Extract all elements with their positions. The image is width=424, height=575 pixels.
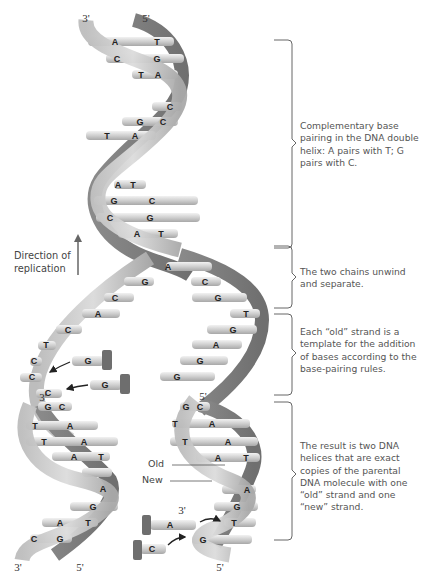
- svg-text:A: A: [71, 452, 78, 462]
- svg-text:C: C: [114, 54, 121, 64]
- old-strand-label: Old: [148, 458, 164, 469]
- svg-text:T: T: [243, 309, 249, 319]
- svg-text:C: C: [31, 356, 38, 366]
- left-strand-bases: G C A C T C C C: [20, 277, 154, 398]
- svg-text:G: G: [233, 502, 240, 512]
- svg-text:T: T: [182, 437, 188, 447]
- svg-text:A: A: [67, 421, 74, 431]
- svg-text:G: G: [136, 117, 143, 127]
- annotation-brackets: [274, 40, 296, 540]
- svg-text:A: A: [155, 70, 162, 80]
- svg-text:T: T: [98, 452, 104, 462]
- new-strand-label: New: [142, 474, 163, 485]
- svg-text:T: T: [41, 437, 47, 447]
- parental-helix: A T C G T A C G C T A A T G C C G A T: [86, 20, 200, 275]
- svg-text:C: C: [149, 544, 156, 554]
- svg-text:G: G: [214, 293, 221, 303]
- annotation-template: Each “old” strand is a template for the …: [300, 326, 422, 375]
- svg-text:T: T: [130, 180, 136, 190]
- svg-text:C: C: [107, 213, 114, 223]
- arrow-icon: [50, 362, 70, 372]
- svg-text:G: G: [141, 277, 148, 287]
- annotation-result: The result is two DNA helices that are e…: [300, 440, 422, 514]
- svg-text:T: T: [104, 131, 110, 141]
- svg-text:G: G: [199, 535, 206, 545]
- svg-text:T: T: [138, 70, 144, 80]
- svg-text:C: C: [112, 293, 119, 303]
- incoming-nucleotides-left: G G: [50, 350, 130, 394]
- svg-text:C: C: [65, 325, 72, 335]
- svg-text:5': 5': [199, 390, 207, 402]
- direction-of-replication-label: Direction of replication: [14, 249, 71, 275]
- svg-text:A: A: [81, 437, 88, 447]
- svg-text:C: C: [160, 117, 167, 127]
- svg-text:A: A: [100, 484, 107, 494]
- bracket-unwind: [274, 246, 296, 308]
- svg-text:G: G: [229, 325, 236, 335]
- svg-text:G: G: [84, 356, 91, 366]
- svg-text:C: C: [31, 534, 38, 544]
- svg-text:A: A: [225, 437, 232, 447]
- svg-text:G: G: [173, 372, 180, 382]
- svg-text:C: C: [29, 372, 36, 382]
- svg-text:T: T: [172, 419, 178, 429]
- svg-text:5': 5': [142, 12, 150, 24]
- svg-text:A: A: [167, 520, 174, 530]
- end-labels: 3' 5' 3' 5' 3' 5' 3' 5': [14, 12, 224, 573]
- svg-text:A: A: [132, 131, 139, 141]
- svg-text:T: T: [43, 340, 49, 350]
- svg-text:G: G: [146, 213, 153, 223]
- svg-text:C: C: [149, 196, 156, 206]
- svg-text:T: T: [85, 518, 91, 528]
- svg-text:G: G: [153, 54, 160, 64]
- svg-text:G: G: [56, 534, 63, 544]
- arrow-icon: [168, 537, 185, 545]
- svg-text:5': 5': [76, 561, 84, 573]
- svg-text:A: A: [209, 419, 216, 429]
- svg-text:A: A: [215, 453, 222, 463]
- svg-text:3': 3': [82, 12, 90, 24]
- svg-text:G: G: [182, 402, 189, 412]
- svg-text:G: G: [196, 356, 203, 366]
- svg-text:A: A: [112, 37, 119, 47]
- annotation-unwind: The two chains unwind and separate.: [300, 266, 422, 291]
- bracket-result: [274, 402, 296, 540]
- svg-text:T: T: [32, 421, 38, 431]
- daughter-helix-left: G C T A T A A T A G A T C G: [22, 402, 118, 560]
- svg-text:3': 3': [178, 504, 186, 516]
- svg-text:C: C: [167, 102, 174, 112]
- svg-text:T: T: [231, 518, 237, 528]
- svg-text:A: A: [244, 485, 251, 495]
- svg-text:G: G: [89, 502, 96, 512]
- annotation-base-pairing: Complementary base pairing in the DNA do…: [300, 120, 422, 169]
- bracket-pairing: [274, 40, 296, 248]
- svg-text:C: C: [59, 402, 66, 412]
- svg-text:3': 3': [39, 391, 47, 403]
- svg-text:T: T: [154, 37, 160, 47]
- svg-text:A: A: [115, 180, 122, 190]
- svg-text:A: A: [165, 262, 172, 272]
- svg-text:3': 3': [14, 561, 22, 573]
- bracket-template: [274, 314, 296, 395]
- svg-text:A: A: [213, 340, 220, 350]
- svg-text:A: A: [57, 518, 64, 528]
- svg-text:G: G: [101, 380, 108, 390]
- svg-text:G: G: [110, 196, 117, 206]
- svg-text:T: T: [243, 453, 249, 463]
- direction-arrow: [74, 234, 82, 275]
- svg-text:T: T: [158, 229, 164, 239]
- svg-text:5': 5': [216, 561, 224, 573]
- arrow-icon: [67, 385, 88, 389]
- svg-text:C: C: [202, 277, 209, 287]
- svg-text:G: G: [44, 402, 51, 412]
- svg-text:A: A: [95, 309, 102, 319]
- svg-text:C: C: [197, 402, 204, 412]
- svg-text:A: A: [134, 229, 141, 239]
